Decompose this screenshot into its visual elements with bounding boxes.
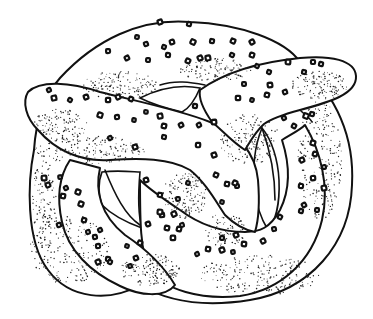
salt-crystal [311,176,316,181]
salt-crystal [322,165,326,169]
salt-crystal [186,181,190,185]
salt-crystal [178,122,184,128]
salt-crystal [75,189,81,195]
salt-crystal [190,39,196,45]
salt-crystal [225,182,230,187]
salt-crystal [220,200,224,204]
salt-crystal [161,123,166,128]
salt-crystal [157,113,163,119]
salt-crystal [115,94,121,100]
salt-crystal [299,184,304,189]
salt-crystal [219,247,225,253]
salt-crystal [164,225,169,230]
salt-crystal [106,49,110,53]
salt-crystal [196,122,201,127]
salt-crystal [124,55,130,61]
salt-crystal [272,227,276,231]
salt-crystal [169,39,174,44]
salt-crystal [205,55,210,60]
salt-crystal [108,136,113,141]
salt-crystal [213,172,219,178]
salt-crystal [286,60,291,65]
salt-crystal [158,193,163,198]
salt-crystal [242,242,247,247]
salt-crystal [250,98,254,102]
salt-crystal [137,240,143,246]
salt-crystal [135,35,139,39]
salt-crystal [195,252,200,257]
salt-crystal [230,38,236,44]
salt-crystal [260,238,266,244]
salt-crystal [277,214,282,219]
salt-crystal [264,92,269,97]
salt-crystal [132,144,138,150]
salt-crystal [61,194,66,199]
salt-crystal [162,45,167,50]
salt-crystal [78,201,84,207]
salt-crystal [115,115,119,119]
salt-crystal [146,58,150,62]
salt-crystal [236,96,240,100]
salt-crystal [83,94,89,100]
salt-crystal [303,113,309,119]
salt-crystal [42,176,47,181]
salt-crystal [95,259,101,265]
salt-crystal [242,82,246,86]
salt-crystal [96,244,100,248]
salt-crystal [171,211,177,217]
salt-crystal [220,236,224,240]
salt-crystal [46,88,51,93]
salt-crystal [299,209,304,214]
salt-crystal [93,235,98,240]
salt-crystal [108,260,113,265]
salt-crystal [255,64,260,69]
salt-crystal [211,152,217,158]
salt-crystal [187,22,192,27]
salt-crystal [162,135,166,139]
salt-crystal [232,180,238,186]
salt-crystal [97,112,103,118]
salt-crystal [233,232,239,238]
salt-crystal [267,82,272,87]
salt-crystal [231,250,235,254]
salt-crystal [302,70,307,75]
salt-crystal [267,70,272,75]
salt-crystal [180,223,184,227]
salt-crystal [212,120,217,125]
salt-crystal [132,118,136,122]
salt-crystal [145,221,150,226]
salt-crystal [68,98,73,103]
salt-crystal [185,58,191,64]
salt-crystal [196,143,201,148]
salt-crystal [56,223,61,228]
salt-crystal [301,202,306,207]
salt-crystal [299,157,305,163]
salt-crystal [310,112,315,117]
salt-crystal [98,228,103,233]
salt-crystal [143,177,148,182]
salt-crystal [321,185,326,190]
salt-crystal [157,19,163,25]
salt-crystal [319,62,324,67]
salt-crystal [210,39,215,44]
salt-crystal [291,123,296,128]
salt-crystal [133,255,138,260]
salt-crystal [229,52,234,57]
pretzel-illustration [0,0,373,319]
salt-crystal [106,98,110,102]
salt-crystal [128,264,132,268]
salt-crystal [144,110,148,114]
salt-crystal [249,39,255,45]
salt-crystal [311,60,315,64]
salt-crystal [249,52,254,57]
salt-crystal [206,247,211,252]
salt-crystal [312,151,317,156]
salt-crystal [281,115,286,120]
salt-crystal [197,55,203,61]
salt-crystal [58,175,62,179]
salt-crystal [171,236,176,241]
salt-crystal [282,89,287,94]
salt-crystal [310,140,316,146]
salt-crystal [176,197,180,201]
salt-crystal [128,96,133,101]
